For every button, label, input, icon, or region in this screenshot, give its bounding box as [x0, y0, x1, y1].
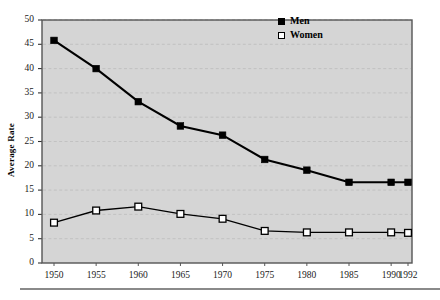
y-tick-label: 45 [14, 38, 34, 48]
x-tick-label: 1960 [121, 270, 155, 280]
data-point-marker[interactable] [261, 228, 268, 235]
x-tick-label: 1970 [206, 270, 240, 280]
y-tick-label: 50 [14, 14, 34, 24]
y-tick-label: 25 [14, 136, 34, 146]
data-point-marker[interactable] [303, 229, 310, 236]
data-point-marker[interactable] [405, 179, 412, 186]
legend-item-women[interactable]: Women [278, 29, 323, 41]
legend-label-women: Women [290, 30, 323, 40]
data-point-marker[interactable] [346, 229, 353, 236]
data-point-marker[interactable] [219, 132, 226, 139]
y-tick-label: 40 [14, 63, 34, 73]
chart-figure: Average Rate Men Women 05101520253035404… [0, 0, 440, 300]
data-point-marker[interactable] [93, 65, 100, 72]
data-point-marker[interactable] [51, 37, 58, 44]
data-point-marker[interactable] [388, 229, 395, 236]
x-tick-label: 1980 [290, 270, 324, 280]
data-point-marker[interactable] [135, 203, 142, 210]
x-tick-label: 1965 [163, 270, 197, 280]
y-tick-label: 0 [14, 257, 34, 267]
data-point-marker[interactable] [219, 215, 226, 222]
y-tick-label: 20 [14, 160, 34, 170]
x-tick-label: 1992 [391, 270, 425, 280]
data-point-marker[interactable] [177, 211, 184, 218]
chart-legend: Men Women [278, 15, 323, 41]
footer-divider [20, 288, 440, 290]
data-point-marker[interactable] [304, 167, 311, 174]
x-tick-label: 1985 [332, 270, 366, 280]
data-point-marker[interactable] [388, 179, 395, 186]
legend-item-men[interactable]: Men [278, 15, 323, 27]
line-chart [0, 0, 440, 300]
legend-label-men: Men [290, 16, 309, 26]
data-point-marker[interactable] [93, 207, 100, 214]
x-tick-label: 1955 [79, 270, 113, 280]
filled-square-icon [278, 18, 285, 25]
y-tick-label: 30 [14, 111, 34, 121]
data-point-marker[interactable] [346, 179, 353, 186]
y-tick-label: 5 [14, 233, 34, 243]
y-tick-label: 15 [14, 184, 34, 194]
data-point-marker[interactable] [177, 123, 184, 130]
data-point-marker[interactable] [135, 98, 142, 105]
data-point-marker[interactable] [261, 156, 268, 163]
data-point-marker[interactable] [405, 229, 412, 236]
y-tick-label: 10 [14, 208, 34, 218]
open-square-icon [278, 32, 285, 39]
x-tick-label: 1950 [37, 270, 71, 280]
data-point-marker[interactable] [51, 219, 58, 226]
y-tick-label: 35 [14, 87, 34, 97]
x-tick-label: 1975 [248, 270, 282, 280]
